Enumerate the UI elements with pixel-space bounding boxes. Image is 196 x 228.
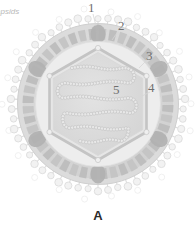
label-1: 1 xyxy=(88,1,95,14)
virus-diagram-figure: 1 2 3 4 5 apsids A xyxy=(0,0,196,228)
label-4: 4 xyxy=(148,81,155,94)
label-2: 2 xyxy=(118,19,125,32)
virion-illustration xyxy=(0,0,196,228)
label-3: 3 xyxy=(146,49,153,62)
panel-letter: A xyxy=(0,208,196,223)
label-5: 5 xyxy=(113,83,120,96)
side-caption: apsids xyxy=(0,8,19,16)
